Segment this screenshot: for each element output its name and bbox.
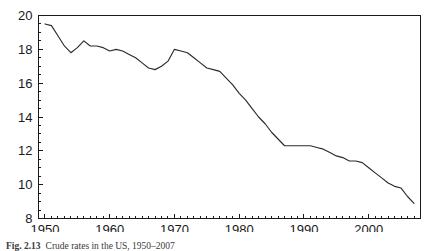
x-axis-tick-label: 1950 (31, 222, 60, 233)
y-axis-tick-label: 14 (18, 110, 32, 125)
figure-caption-clip: Fig. 2.13Crude rates in the US, 1950–200… (0, 241, 431, 251)
x-axis-tick-label: 1960 (95, 222, 124, 233)
y-axis-tick-label: 18 (18, 42, 32, 57)
figure-caption-label: Fig. 2.13 (6, 241, 41, 251)
data-series-line (45, 24, 414, 203)
y-axis-tick-label: 12 (18, 143, 32, 158)
chart-canvas: 8101214161820195019601970198019902000 (0, 0, 431, 232)
x-axis-tick-label: 2000 (354, 222, 383, 233)
y-axis-tick-label: 16 (18, 76, 32, 91)
x-axis-tick-label: 1970 (160, 222, 189, 233)
line-chart: 8101214161820195019601970198019902000 (0, 0, 431, 232)
figure-caption-text: Crude rates in the US, 1950–2007 (46, 241, 175, 251)
y-axis-tick-label: 10 (18, 177, 32, 192)
figure-container: 8101214161820195019601970198019902000 Fi… (0, 0, 431, 251)
x-axis-tick-label: 1990 (289, 222, 318, 233)
x-axis-tick-label: 1980 (225, 222, 254, 233)
figure-caption: Fig. 2.13Crude rates in the US, 1950–200… (6, 241, 175, 251)
y-axis-tick-label: 20 (18, 8, 32, 23)
